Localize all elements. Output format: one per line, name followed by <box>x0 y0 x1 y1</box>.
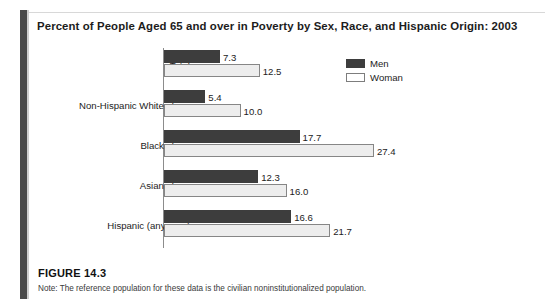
bar-value-women-2: 27.4 <box>377 146 396 157</box>
bar-men-4 <box>164 210 291 223</box>
bar-value-men-3: 12.3 <box>261 172 280 183</box>
bar-value-men-1: 5.4 <box>208 92 221 103</box>
figure-note: Note: The reference population for these… <box>38 284 366 293</box>
chart-title: Percent of People Aged 65 and over in Po… <box>37 20 537 32</box>
bar-value-women-1: 10.0 <box>244 106 263 117</box>
chart-plot-area: Total7.312.5Non-Hispanic White alone5.41… <box>29 48 539 256</box>
bar-women-1 <box>164 104 241 117</box>
legend-label: Woman <box>370 72 403 83</box>
bar-women-3 <box>164 184 287 197</box>
legend-item-men: Men <box>346 57 403 69</box>
bar-men-2 <box>164 130 300 143</box>
bar-women-0 <box>164 64 260 77</box>
outlined-square-swatch <box>346 73 365 82</box>
figure-page: Percent of People Aged 65 and over in Po… <box>0 0 545 299</box>
bar-women-4 <box>164 224 330 237</box>
category-label-1: Non-Hispanic White alone <box>10 100 190 111</box>
category-label-2: Black alone <box>10 140 190 151</box>
bar-men-3 <box>164 170 258 183</box>
legend-item-woman: Woman <box>346 71 403 83</box>
figure-title-divider <box>29 12 545 13</box>
bar-value-women-3: 16.0 <box>290 186 309 197</box>
bar-women-2 <box>164 144 374 157</box>
figure-number-label: FIGURE 14.3 <box>38 267 106 279</box>
figure-left-rule <box>20 10 27 299</box>
bar-value-men-2: 17.7 <box>303 132 322 143</box>
bar-value-women-4: 21.7 <box>333 226 352 237</box>
legend-label: Men <box>370 58 389 69</box>
bar-men-0 <box>164 50 220 63</box>
bar-value-men-0: 7.3 <box>223 52 236 63</box>
filled-square-swatch <box>346 59 365 68</box>
bar-men-1 <box>164 90 205 103</box>
bar-value-men-4: 16.6 <box>294 212 313 223</box>
category-label-0: Total <box>10 60 190 71</box>
category-label-4: Hispanic (any race) <box>10 220 190 231</box>
category-label-3: Asian alone <box>10 180 190 191</box>
bar-value-women-0: 12.5 <box>263 66 282 77</box>
chart-legend: MenWoman <box>346 57 403 85</box>
